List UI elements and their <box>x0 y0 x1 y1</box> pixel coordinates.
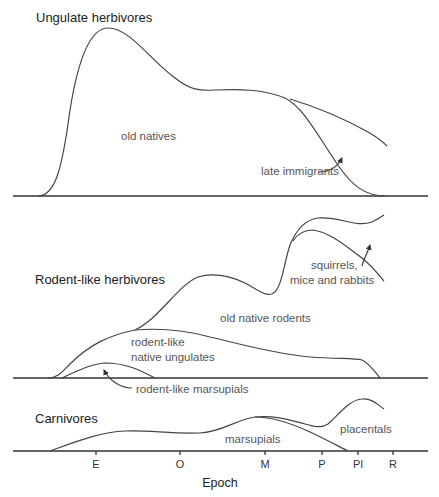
tick-label-P: P <box>318 458 325 470</box>
tick-label-Pl: Pl <box>353 458 363 470</box>
tick-label-O: O <box>176 458 185 470</box>
label-native-ungulates: native ungulates <box>131 350 215 364</box>
label-squirrels: squirrels, <box>311 258 358 272</box>
panel-title-carnivores: Carnivores <box>35 411 98 426</box>
panel-title-rodent-like-herbivores: Rodent-like herbivores <box>35 272 165 287</box>
label-rodent-like-marsupials: rodent-like marsupials <box>136 382 249 396</box>
rodent-like-marsupials-pointer <box>104 370 132 388</box>
squirrels-mice-rabbits-upper-curve <box>48 215 384 378</box>
label-old-native-rodents: old native rodents <box>220 311 311 325</box>
label-placentals: placentals <box>340 422 392 436</box>
label-old-natives: old natives <box>121 129 176 143</box>
squirrels-pointer <box>362 245 370 266</box>
tick-label-R: R <box>389 458 397 470</box>
late-immigrants-curve <box>290 99 387 146</box>
label-mice-and-rabbits: mice and rabbits <box>290 273 374 287</box>
tick-label-E: E <box>92 458 99 470</box>
panel-title-ungulate-herbivores: Ungulate herbivores <box>36 10 152 25</box>
label-marsupials: marsupials <box>225 432 281 446</box>
label-late-immigrants: late immigrants <box>261 164 339 178</box>
x-axis-label: Epoch <box>202 476 237 490</box>
rodent-like-marsupials-curve <box>62 363 155 378</box>
tick-label-M: M <box>260 458 269 470</box>
label-rodent-like: rodent-like <box>131 335 185 349</box>
